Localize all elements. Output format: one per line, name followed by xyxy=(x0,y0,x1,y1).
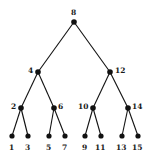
tree-edge xyxy=(49,108,54,136)
node-label-6: 6 xyxy=(58,103,63,111)
tree-edges xyxy=(12,22,138,136)
tree-node-dot xyxy=(135,133,140,138)
node-label-14: 14 xyxy=(132,103,142,111)
tree-node-dot xyxy=(90,105,96,111)
node-label-4: 4 xyxy=(28,67,33,75)
node-label-11: 11 xyxy=(95,144,105,152)
tree-node-dot xyxy=(119,133,124,138)
node-label-3: 3 xyxy=(25,144,30,152)
tree-node-dot xyxy=(46,133,51,138)
node-label-12: 12 xyxy=(115,67,125,75)
tree-node-dot xyxy=(125,105,131,111)
tree-node-dot xyxy=(18,105,24,111)
tree-edge xyxy=(93,108,101,136)
tree-node-dot xyxy=(25,133,30,138)
tree-node-dot xyxy=(51,105,57,111)
node-label-8: 8 xyxy=(71,9,76,17)
node-label-7: 7 xyxy=(62,144,67,152)
tree-nodes xyxy=(9,19,140,138)
tree-edge xyxy=(21,108,28,136)
tree-edge xyxy=(122,108,128,136)
tree-edge xyxy=(38,22,74,72)
tree-node-dot xyxy=(35,69,41,75)
node-label-9: 9 xyxy=(82,144,87,152)
node-label-2: 2 xyxy=(11,103,16,111)
node-label-1: 1 xyxy=(9,144,14,152)
tree-edge xyxy=(110,72,128,108)
binary-search-tree-figure: 841226101413579111315 xyxy=(0,0,151,155)
tree-edge xyxy=(85,108,93,136)
tree-graphics xyxy=(0,0,151,155)
tree-node-dot xyxy=(62,133,67,138)
tree-node-dot xyxy=(9,133,14,138)
node-label-5: 5 xyxy=(46,144,51,152)
tree-edge xyxy=(21,72,38,108)
tree-node-dot xyxy=(107,69,113,75)
tree-edge xyxy=(38,72,54,108)
tree-edge xyxy=(128,108,138,136)
tree-edge xyxy=(54,108,65,136)
tree-edge xyxy=(93,72,110,108)
node-label-15: 15 xyxy=(132,144,142,152)
tree-node-dot xyxy=(98,133,103,138)
tree-node-dot xyxy=(82,133,87,138)
tree-edge xyxy=(74,22,110,72)
tree-edge xyxy=(12,108,21,136)
node-label-10: 10 xyxy=(78,103,88,111)
tree-node-dot xyxy=(71,19,77,25)
node-label-13: 13 xyxy=(116,144,126,152)
